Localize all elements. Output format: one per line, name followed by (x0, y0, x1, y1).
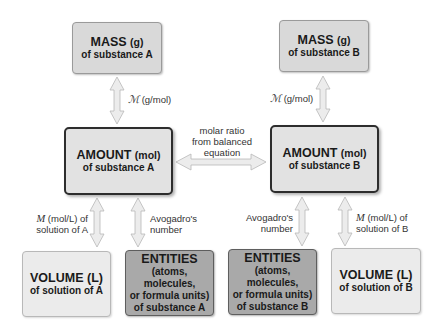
entities-b-line1: (atoms, molecules, (229, 265, 316, 289)
entities-substance-a-box: ENTITIES (atoms, molecules, or formula u… (125, 250, 214, 316)
molarity-label-b: M (mol/L) of solution of B (356, 212, 408, 234)
double-arrow-amount-volume-b (338, 197, 352, 246)
molar-mass-label-a: ℳ (g/mol) (128, 94, 171, 105)
avogadro-label-b: Avogadro's number (236, 212, 293, 234)
mass-a-title: MASS (g) (90, 35, 143, 49)
amount-a-subtitle: of substance A (83, 162, 154, 174)
avogadro-label-a: Avogadro's number (150, 213, 197, 235)
volume-solution-a-box: VOLUME (L) of solution of A (22, 251, 111, 317)
entities-substance-b-box: ENTITIES (atoms, molecules, or formula u… (228, 249, 317, 315)
volume-solution-b-box: VOLUME (L) of solution of B (331, 248, 421, 314)
entities-b-title: ENTITIES (244, 251, 300, 265)
amount-b-title: AMOUNT (mol) (282, 146, 366, 160)
mass-a-subtitle: of substance A (81, 49, 152, 61)
mass-substance-b-box: MASS (g) of substance B (279, 20, 369, 72)
volume-a-title: VOLUME (L) (30, 271, 103, 285)
molarity-label-a: M (mol/L) of solution of A (22, 213, 88, 235)
double-arrow-mass-amount-a (110, 77, 124, 124)
double-arrow-amount-entities-a (131, 198, 145, 247)
mass-substance-a-box: MASS (g) of substance A (72, 22, 162, 74)
volume-b-subtitle: of solution of B (339, 282, 412, 294)
entities-a-line3: of substance A (134, 302, 205, 314)
amount-b-subtitle: of substance B (289, 160, 361, 172)
volume-a-subtitle: of solution of A (30, 285, 103, 297)
mass-b-subtitle: of substance B (288, 47, 360, 59)
double-arrow-amount-entities-b (295, 197, 309, 246)
double-arrow-amount-volume-a (90, 198, 104, 247)
molar-mass-label-b: ℳ (g/mol) (270, 93, 313, 104)
entities-a-line2: or formula units) (130, 290, 209, 302)
entities-a-line1: (atoms, molecules, (126, 266, 213, 290)
double-arrow-mass-amount-b (316, 76, 330, 122)
molar-ratio-label: molar ratio from balanced equation (180, 125, 264, 158)
amount-substance-a-box: AMOUNT (mol) of substance A (64, 127, 173, 195)
entities-a-title: ENTITIES (141, 252, 197, 266)
entities-b-line3: of substance B (237, 301, 309, 313)
amount-a-title: AMOUNT (mol) (76, 148, 160, 162)
mass-b-title: MASS (g) (297, 33, 350, 47)
entities-b-line2: or formula units) (233, 289, 312, 301)
volume-b-title: VOLUME (L) (340, 268, 413, 282)
amount-substance-b-box: AMOUNT (mol) of substance B (270, 125, 379, 193)
